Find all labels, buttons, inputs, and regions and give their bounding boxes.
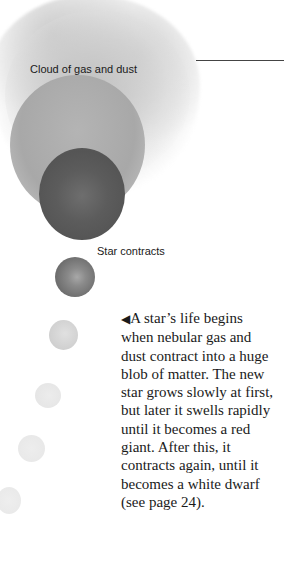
caption-line: blob of matter. The new	[121, 365, 284, 383]
protostar-core	[39, 148, 125, 240]
caption-line: giant. After this, it	[121, 438, 284, 456]
caption-line: until it becomes a red	[121, 420, 284, 438]
pointer-left-icon: ◀	[121, 312, 130, 326]
caption-line: star grows slowly at first,	[121, 383, 284, 401]
cloud-label: Cloud of gas and dust	[30, 63, 137, 75]
star-stage-3	[35, 383, 61, 408]
caption-line: (see page 24).	[121, 493, 284, 511]
caption-line: becomes a white dwarf	[121, 475, 284, 493]
caption-line-0: ◀A star’s life begins	[121, 309, 284, 328]
star-stage-1	[55, 257, 95, 297]
star-stage-5	[0, 487, 21, 514]
star-stage-4	[18, 435, 45, 462]
caption-text: ◀A star’s life begins when nebular gas a…	[121, 309, 284, 511]
caption-line: when nebular gas and	[121, 328, 284, 346]
caption-line: contracts again, until it	[121, 456, 284, 474]
star-stage-2	[49, 320, 78, 350]
caption-line: dust contract into a huge	[121, 347, 284, 365]
leader-line	[196, 60, 284, 61]
caption-line: but later it swells rapidly	[121, 401, 284, 419]
contracts-label: Star contracts	[97, 245, 165, 257]
